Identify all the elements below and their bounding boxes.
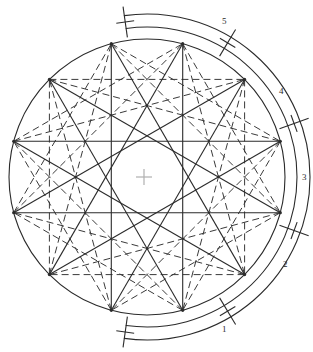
- outer-graduated-arc: [124, 14, 310, 340]
- center-cross-mark: [136, 169, 152, 185]
- tick-cross-3: [291, 115, 297, 132]
- dashed-chord-2-6: [183, 79, 245, 310]
- vertex-6: [181, 309, 184, 312]
- vertex-4: [279, 211, 282, 214]
- dashed-chord-3-7: [111, 141, 280, 310]
- dashed-chord-7-11: [49, 79, 111, 310]
- dashed-chord-10-2: [14, 79, 245, 141]
- label-1: 1: [222, 325, 227, 334]
- dashed-chord-5-9: [14, 213, 245, 275]
- vertex-5: [243, 273, 246, 276]
- star-polygon-diagram: [0, 0, 313, 352]
- dashed-chord-11-3: [49, 79, 280, 141]
- vertex-7: [110, 309, 113, 312]
- outer-arc-outer-edge: [124, 14, 310, 340]
- dashed-chord-6-10: [14, 141, 183, 310]
- dashed-chord-8-12: [49, 44, 111, 275]
- vertex-2: [243, 78, 246, 81]
- vertex-9: [12, 211, 15, 214]
- label-4: 4: [279, 87, 284, 96]
- vertex-1: [181, 42, 184, 45]
- vertex-11: [48, 78, 51, 81]
- tick-cross-2: [220, 38, 235, 47]
- vertex-12: [110, 42, 113, 45]
- dashed-chord-9-1: [14, 44, 183, 213]
- vertex-10: [12, 140, 15, 143]
- vertex-3: [279, 140, 282, 143]
- tick-cross-4: [291, 222, 297, 239]
- dashed-chord-1-5: [183, 44, 245, 275]
- label-2: 2: [283, 260, 288, 269]
- dashed-chord-4-8: [49, 213, 280, 275]
- vertex-8: [48, 273, 51, 276]
- label-3: 3: [302, 173, 307, 182]
- dashed-chord-12-4: [111, 44, 280, 213]
- tick-cross-5: [220, 307, 235, 316]
- geometric-figure: 54321: [0, 0, 313, 352]
- label-5: 5: [222, 17, 227, 26]
